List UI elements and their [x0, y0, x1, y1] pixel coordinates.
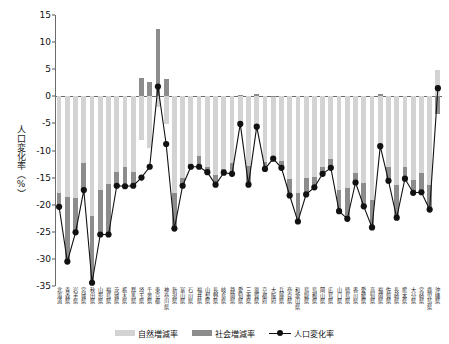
- social-change-segment: [106, 184, 111, 234]
- bar-column: [345, 15, 350, 286]
- bar-column: [230, 15, 235, 286]
- bar-column: [296, 15, 301, 286]
- natural-change-segment: [221, 96, 226, 169]
- natural-change-segment: [123, 96, 128, 166]
- natural-change-segment: [435, 70, 440, 96]
- natural-change-segment: [419, 96, 424, 173]
- bar-column: [114, 15, 119, 286]
- natural-change-segment: [57, 96, 62, 192]
- social-change-segment: [337, 190, 342, 212]
- social-change-segment: [205, 167, 210, 172]
- bar-column: [320, 15, 325, 286]
- bar-column: [271, 15, 276, 286]
- natural-change-segment: [81, 96, 86, 163]
- legend-item-natural: 自然増減率: [115, 328, 178, 339]
- natural-change-segment: [131, 96, 136, 172]
- social-change-segment: [172, 193, 177, 229]
- natural-change-segment: [147, 96, 152, 147]
- natural-change-segment: [287, 96, 292, 178]
- bar-column: [254, 15, 259, 286]
- bar-column: [419, 15, 424, 286]
- legend-label-social: 社会増減率: [215, 328, 255, 339]
- social-change-segment: [147, 82, 152, 96]
- natural-change-segment: [304, 96, 309, 178]
- social-change-segment: [131, 172, 136, 186]
- social-change-segment: [139, 78, 144, 96]
- bar-column: [411, 15, 416, 286]
- natural-change-segment: [370, 96, 375, 200]
- natural-change-segment: [254, 96, 259, 129]
- bar-column: [361, 15, 366, 286]
- natural-change-segment: [213, 96, 218, 175]
- bar-column: [312, 15, 317, 286]
- bar-column: [378, 15, 383, 286]
- bar-column: [123, 15, 128, 286]
- bar-column: [139, 15, 144, 286]
- bar-series-layer: [55, 15, 442, 286]
- bar-column: [221, 15, 226, 286]
- y-tick-mark: [52, 123, 55, 124]
- social-change-segment: [378, 94, 383, 97]
- social-change-segment: [114, 172, 119, 186]
- natural-change-segment: [230, 96, 235, 163]
- natural-change-segment: [90, 96, 95, 215]
- bar-column: [188, 15, 193, 286]
- bar-column: [370, 15, 375, 286]
- natural-swatch-icon: [115, 330, 135, 336]
- bar-column: [337, 15, 342, 286]
- y-axis-title: 人口変化率（%）: [8, 96, 26, 226]
- legend-item-social: 社会増減率: [192, 328, 255, 339]
- bar-column: [131, 15, 136, 286]
- social-change-segment: [156, 29, 161, 97]
- social-change-segment: [98, 190, 103, 234]
- legend-label-line: 人口変化率: [294, 328, 334, 339]
- social-change-segment: [271, 96, 276, 97]
- population-change-chart: 人口変化率（%） 151050-5-10-15-20-25-30-35 北海道青…: [0, 0, 449, 344]
- social-change-segment: [320, 167, 325, 174]
- social-swatch-icon: [192, 330, 212, 336]
- bar-column: [65, 15, 70, 286]
- natural-change-segment: [320, 96, 325, 166]
- natural-change-segment: [114, 96, 119, 171]
- x-axis-labels: 北海道青森県岩手県宮城県秋田県山形県福島県茨城県栃木県群馬県埼玉県千葉県東京都神…: [55, 288, 442, 328]
- natural-change-segment: [246, 96, 251, 165]
- legend-item-line: 人口変化率: [269, 328, 334, 339]
- social-change-segment: [312, 177, 317, 188]
- bar-column: [98, 15, 103, 286]
- bar-column: [279, 15, 284, 286]
- social-change-segment: [213, 175, 218, 185]
- bar-column: [394, 15, 399, 286]
- social-change-segment: [188, 164, 193, 167]
- social-change-segment: [345, 188, 350, 218]
- bar-column: [172, 15, 177, 286]
- natural-change-segment: [180, 96, 185, 177]
- line-marker-icon: [269, 329, 291, 337]
- natural-change-segment: [328, 96, 333, 159]
- natural-change-segment: [337, 96, 342, 189]
- natural-change-segment: [73, 96, 78, 198]
- natural-change-segment: [312, 96, 317, 176]
- bar-column: [403, 15, 408, 286]
- natural-change-segment: [386, 96, 391, 166]
- social-change-segment: [411, 180, 416, 193]
- bar-column: [90, 15, 95, 286]
- social-change-segment: [57, 193, 62, 207]
- social-change-segment: [386, 167, 391, 181]
- bar-column: [386, 15, 391, 286]
- social-change-segment: [419, 173, 424, 192]
- y-tick-mark: [52, 258, 55, 259]
- bar-column: [156, 15, 161, 286]
- social-change-segment: [361, 183, 366, 206]
- social-change-segment: [164, 79, 169, 96]
- social-change-segment: [230, 163, 235, 174]
- y-tick-mark: [52, 69, 55, 70]
- natural-change-segment: [353, 96, 358, 172]
- bar-column: [197, 15, 202, 286]
- bar-column: [81, 15, 86, 286]
- x-tick-label: 沖縄県: [433, 288, 442, 305]
- natural-change-segment: [172, 96, 177, 192]
- bar-column: [353, 15, 358, 286]
- social-change-segment: [73, 198, 78, 232]
- natural-change-segment: [98, 96, 103, 190]
- social-change-segment: [296, 193, 301, 222]
